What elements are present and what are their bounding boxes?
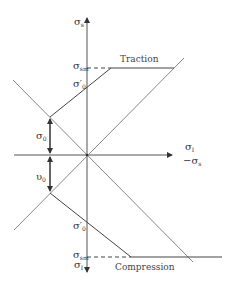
- axis-label-minus-sigma-s: −σs: [183, 156, 201, 167]
- traction-label: Traction: [120, 55, 158, 64]
- compression-label: Compression: [115, 263, 175, 272]
- origin-point: [86, 154, 89, 157]
- upsilon0-label: υ0: [36, 172, 46, 183]
- failure-envelope-diagram: [0, 0, 233, 286]
- traction-slope: [50, 68, 111, 117]
- axis-label-sigma-s: σs: [74, 17, 84, 28]
- sigma0-label: σ0: [36, 131, 47, 142]
- sigma-sm-top-label: σsm: [73, 61, 89, 72]
- diagonal-ascending: [14, 58, 184, 230]
- axis-label-sigma-i-bottom: σI: [74, 260, 83, 271]
- axis-label-sigma-i: σI: [185, 142, 194, 153]
- compression-slope: [50, 193, 131, 257]
- sigma0-prime-top-label: σ′0: [73, 79, 86, 90]
- sigma0-prime-bottom-label: σ′0: [73, 221, 86, 232]
